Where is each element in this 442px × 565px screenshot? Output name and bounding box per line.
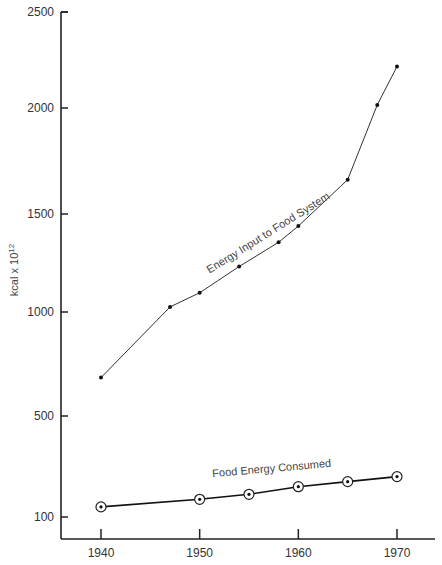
food-energy-label: Food Energy Consumed [212,457,332,479]
data-point-marker [237,265,241,269]
y-tick-label: 2500 [27,5,54,19]
y-tick-label: 100 [34,510,54,524]
y-tick-label: 1500 [27,207,54,221]
energy-input-label: Energy Input to Food System [204,190,331,276]
data-point-marker [168,305,172,309]
data-point-marker [346,178,350,182]
x-tick-label: 1940 [88,546,115,560]
data-point-marker [296,224,300,228]
series-food-energy-consumed [96,472,402,512]
y-tick-label: 1000 [27,305,54,319]
data-point-marker [277,240,281,244]
x-ticks: 1940195019601970 [88,529,411,560]
line-chart: 1005001000150020002500 1940195019601970 … [0,0,442,565]
data-point-marker [375,103,379,107]
x-tick-label: 1960 [285,546,312,560]
series-line [101,67,397,378]
series-energy-input [99,65,399,380]
data-point-marker [198,291,202,295]
axes [61,12,435,539]
y-tick-label: 2000 [27,101,54,115]
x-tick-label: 1950 [186,546,213,560]
x-tick-label: 1970 [384,546,411,560]
data-point-marker [395,65,399,69]
y-tick-label: 500 [34,409,54,423]
y-ticks: 1005001000150020002500 [27,5,68,524]
data-point-marker [99,376,103,380]
y-axis-label: kcal x 1012 [7,243,20,296]
